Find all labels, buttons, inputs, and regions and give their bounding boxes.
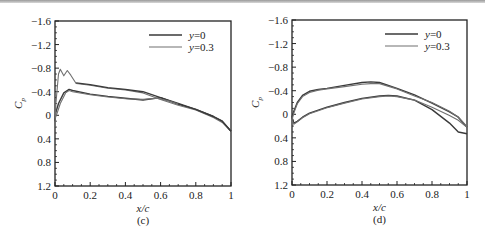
y-tick-label: 0.4 [274, 132, 288, 144]
y-tick-label: 1.2 [37, 180, 51, 192]
series-line [292, 95, 467, 133]
y-axis-title: Cp [12, 98, 27, 109]
y-tick-label: −1.6 [268, 14, 288, 26]
series-line [292, 84, 467, 127]
chart-panel-d: −1.6−1.2−0.8−0.400.40.81.200.20.40.60.81… [249, 14, 470, 226]
y-tick-label: 0.8 [274, 155, 288, 167]
x-tick-label: 0.4 [119, 189, 133, 201]
y-tick-label: −0.4 [268, 85, 288, 97]
panel-caption: (d) [373, 213, 386, 226]
x-tick-label: 1 [464, 188, 470, 200]
panel-caption: (c) [137, 214, 150, 227]
x-tick-label: 0.8 [425, 188, 439, 200]
chart-panel-c: −1.6−1.2−0.8−0.400.40.81.200.20.40.60.81… [12, 15, 234, 227]
series-line [292, 96, 467, 127]
y-tick-label: −0.8 [31, 62, 51, 74]
y-tick-label: −1.6 [31, 15, 51, 27]
x-tick-label: 0 [52, 189, 58, 201]
y-tick-label: 0.8 [37, 156, 51, 168]
series-line [55, 91, 178, 119]
figure-canvas: −1.6−1.2−0.8−0.400.40.81.200.20.40.60.81… [0, 0, 485, 241]
legend-label: y=0 [188, 29, 206, 41]
y-tick-label: −1.2 [268, 38, 288, 50]
y-tick-label: 1.2 [274, 179, 288, 191]
x-tick-label: 0.2 [320, 188, 334, 200]
legend-label: y=0 [424, 28, 442, 40]
y-tick-label: −0.4 [31, 86, 51, 98]
y-tick-label: 0 [283, 108, 289, 120]
x-tick-label: 1 [228, 189, 234, 201]
y-tick-label: −0.8 [268, 61, 288, 73]
series-line [76, 83, 231, 131]
series-line [55, 89, 231, 131]
x-tick-label: 0.2 [83, 189, 97, 201]
x-tick-label: 0.8 [189, 189, 203, 201]
x-tick-label: 0 [289, 188, 295, 200]
series-line [292, 82, 467, 127]
x-axis-title: x/c [136, 202, 150, 214]
x-axis-title: x/c [372, 201, 386, 213]
y-axis-title: Cp [249, 97, 264, 108]
y-tick-label: 0.4 [37, 133, 51, 145]
legend-label: y=0.3 [188, 41, 214, 53]
x-tick-label: 0.6 [390, 188, 404, 200]
x-tick-label: 0.6 [154, 189, 168, 201]
y-tick-label: 0 [46, 109, 52, 121]
legend-label: y=0.3 [424, 40, 450, 52]
y-tick-label: −1.2 [31, 39, 51, 51]
x-tick-label: 0.4 [355, 188, 369, 200]
